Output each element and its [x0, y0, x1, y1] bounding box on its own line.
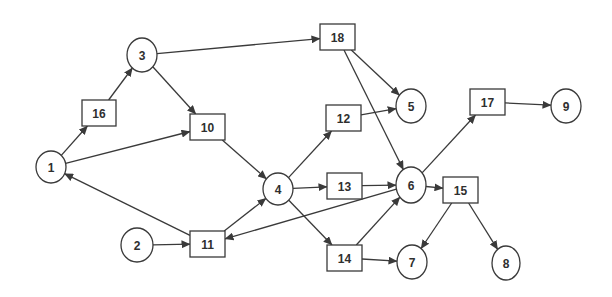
node-label: 15	[454, 184, 468, 198]
node-label: 2	[134, 239, 141, 253]
node-label: 18	[331, 31, 345, 45]
edge-3-to-18	[157, 39, 320, 54]
node-label: 6	[408, 179, 415, 193]
edge-12-to-5	[361, 109, 396, 115]
node-label: 17	[481, 96, 495, 110]
node-label: 5	[408, 100, 415, 114]
edge-15-to-8	[469, 203, 498, 249]
node-11: 11	[190, 231, 225, 257]
edge-18-to-5	[351, 50, 399, 95]
node-9: 9	[551, 89, 581, 123]
node-label: 14	[338, 252, 352, 266]
node-8: 8	[492, 246, 520, 280]
edge-11-to-4	[224, 198, 266, 231]
node-label: 7	[409, 256, 416, 270]
node-14: 14	[327, 245, 362, 271]
edge-4-to-12	[289, 131, 332, 178]
edge-16-to-3	[109, 68, 133, 100]
node-2: 2	[121, 228, 153, 262]
edge-13-to-6	[362, 185, 396, 186]
edge-17-to-9	[505, 103, 551, 105]
node-label: 16	[92, 107, 106, 121]
edge-10-to-4	[222, 140, 266, 179]
node-label: 9	[563, 100, 570, 114]
node-label: 13	[338, 180, 352, 194]
node-13: 13	[327, 173, 362, 199]
edge-4-to-13	[293, 187, 327, 189]
node-label: 12	[337, 112, 351, 126]
edge-14-to-7	[362, 259, 397, 261]
node-1: 1	[36, 151, 66, 183]
network-diagram: 123456789101112131415161718	[0, 0, 612, 297]
node-label: 3	[139, 49, 146, 63]
edge-1-to-16	[61, 126, 87, 155]
edge-6-to-11	[225, 189, 396, 239]
edge-1-to-10	[66, 132, 190, 164]
edge-2-to-11	[153, 244, 190, 245]
node-17: 17	[470, 89, 505, 115]
edge-6-to-15	[426, 187, 443, 189]
edge-14-to-6	[356, 197, 400, 245]
edge-4-to-14	[289, 200, 332, 245]
node-6: 6	[396, 167, 426, 203]
nodes-layer: 123456789101112131415161718	[36, 24, 581, 280]
node-label: 10	[201, 121, 215, 135]
node-label: 1	[48, 161, 55, 175]
node-12: 12	[326, 105, 361, 131]
node-16: 16	[82, 100, 116, 126]
node-10: 10	[190, 114, 225, 140]
node-7: 7	[397, 245, 427, 279]
node-4: 4	[263, 173, 293, 205]
node-15: 15	[443, 177, 478, 203]
edge-3-to-10	[153, 67, 196, 114]
node-18: 18	[320, 24, 355, 50]
edge-6-to-17	[422, 115, 475, 173]
node-label: 4	[275, 183, 282, 197]
node-label: 8	[503, 257, 510, 271]
node-label: 11	[201, 238, 214, 252]
edge-11-to-1	[65, 174, 190, 236]
edge-15-to-7	[421, 203, 452, 249]
node-3: 3	[127, 38, 157, 72]
node-5: 5	[396, 89, 426, 123]
